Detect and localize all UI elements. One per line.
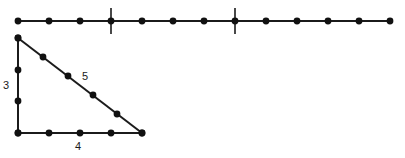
- figure-root: 3 4 5: [0, 0, 405, 158]
- triangle-hypotenuse: [18, 38, 142, 133]
- vertical-leg-label: 3: [3, 79, 9, 91]
- number-line-dot: [325, 18, 332, 25]
- right-triangle: 3 4 5: [3, 35, 145, 152]
- hypotenuse-label: 5: [82, 70, 88, 82]
- unit-dot: [108, 130, 115, 137]
- number-line-dot: [387, 18, 394, 25]
- unit-dot: [15, 130, 22, 137]
- unit-dot: [15, 98, 22, 105]
- unit-dot: [46, 130, 53, 137]
- number-line-dot: [232, 18, 239, 25]
- number-line-dot: [46, 18, 53, 25]
- figure-canvas: 3 4 5: [0, 0, 405, 158]
- unit-dot: [40, 54, 47, 61]
- unit-dot: [114, 111, 121, 118]
- number-line-dot: [294, 18, 301, 25]
- number-line-dot: [15, 18, 22, 25]
- horizontal-leg-label: 4: [75, 140, 81, 152]
- number-line-dot: [263, 18, 270, 25]
- unit-dot: [15, 35, 22, 42]
- number-line: [15, 8, 394, 34]
- unit-dot: [139, 130, 146, 137]
- unit-dot: [77, 130, 84, 137]
- number-line-dot: [356, 18, 363, 25]
- number-line-dot: [77, 18, 84, 25]
- number-line-dot: [170, 18, 177, 25]
- number-line-dot: [201, 18, 208, 25]
- unit-dot: [15, 67, 22, 74]
- unit-dot: [65, 73, 72, 80]
- number-line-dot: [108, 18, 115, 25]
- unit-dot: [90, 92, 97, 99]
- number-line-dot: [139, 18, 146, 25]
